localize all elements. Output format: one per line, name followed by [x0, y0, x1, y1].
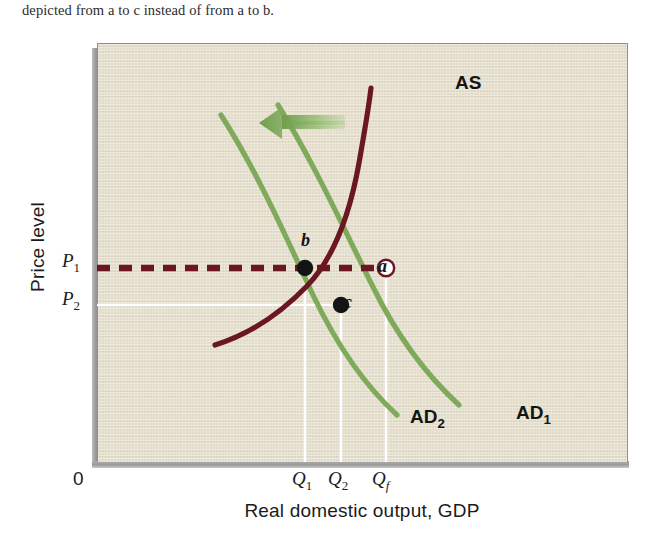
- x-tick-q2-sub: 2: [342, 478, 348, 493]
- curve-label-as-text: AS: [455, 72, 481, 93]
- x-axis-title: Real domestic output, GDP: [112, 500, 612, 522]
- x-tick-label-q2: Q2: [328, 468, 348, 494]
- curve-label-ad2-text: AD: [410, 406, 437, 427]
- curve-label-ad2: AD2: [410, 406, 445, 431]
- x-tick-q2-base: Q: [328, 468, 342, 489]
- x-tick-q1-base: Q: [292, 468, 306, 489]
- curve-label-ad1-text: AD: [516, 402, 543, 423]
- curve-label-ad1: AD1: [516, 402, 551, 427]
- shift-arrow-icon: [259, 107, 345, 139]
- point-label-b: b: [301, 230, 310, 251]
- curve-label-as: AS: [455, 72, 481, 94]
- x-tick-qf-base: Q: [372, 468, 386, 489]
- ad-as-plot: [97, 43, 628, 462]
- figure-frame-shadow-bottom: [92, 461, 629, 468]
- x-tick-q1-sub: 1: [306, 478, 312, 493]
- y-tick-label-p2: P2: [62, 288, 80, 314]
- y-tick-label-p1: P1: [62, 250, 80, 276]
- point-label-c: c: [344, 292, 352, 313]
- y-tick-p1-sub: 1: [74, 260, 80, 275]
- x-tick-label-q1: Q1: [292, 468, 312, 494]
- origin-label: 0: [73, 468, 84, 490]
- y-axis-title: Price level: [27, 157, 49, 337]
- y-tick-p1-base: P: [62, 250, 74, 271]
- point-b-marker: [297, 260, 313, 276]
- caption-full: depicted from a to c instead of from a t…: [22, 2, 274, 18]
- x-tick-qf-sub: f: [386, 478, 390, 493]
- y-tick-p2-sub: 2: [74, 298, 80, 313]
- curve-label-ad1-sub: 1: [543, 412, 550, 427]
- y-tick-p2-base: P: [62, 288, 74, 309]
- curve-label-ad2-sub: 2: [437, 416, 444, 431]
- x-tick-label-qf: Qf: [372, 468, 389, 494]
- figure-caption: depicted from a to c instead of from a t…: [22, 2, 622, 19]
- point-label-a: a: [378, 256, 387, 277]
